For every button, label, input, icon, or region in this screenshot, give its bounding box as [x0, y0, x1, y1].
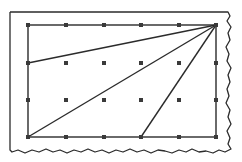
grid-dot — [26, 23, 30, 27]
segment-2 — [28, 25, 216, 137]
grid-dot — [102, 61, 106, 65]
grid-dot — [26, 98, 30, 102]
grid-dot — [139, 98, 143, 102]
grid-dot — [177, 23, 181, 27]
grid-dot — [214, 61, 218, 65]
grid-dot — [177, 135, 181, 139]
grid-dot — [177, 61, 181, 65]
grid-dot — [102, 135, 106, 139]
grid-dot — [102, 98, 106, 102]
grid-dot — [214, 135, 218, 139]
grid-dot — [139, 135, 143, 139]
grid-dot — [177, 98, 181, 102]
grid-dot — [26, 61, 30, 65]
grid-dot — [26, 135, 30, 139]
diagram-canvas — [0, 0, 242, 162]
grid-dot — [214, 98, 218, 102]
grid-dot — [64, 98, 68, 102]
grid-dot — [214, 23, 218, 27]
geoboard-figure — [0, 0, 242, 162]
triangle-segments — [28, 25, 216, 137]
grid-dot — [102, 23, 106, 27]
segment-3 — [141, 25, 216, 137]
grid-dot — [64, 61, 68, 65]
grid-dot — [64, 135, 68, 139]
segment-1 — [28, 25, 216, 63]
grid-dot — [139, 61, 143, 65]
grid-dot — [64, 23, 68, 27]
grid-dot — [139, 23, 143, 27]
